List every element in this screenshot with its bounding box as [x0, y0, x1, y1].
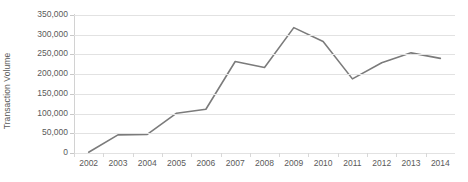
x-axis-tick-mark [103, 153, 104, 157]
y-axis-tick-label: 250,000 [14, 48, 68, 58]
y-axis-tick-label: 300,000 [14, 29, 68, 39]
y-axis-tick-label: 150,000 [14, 88, 68, 98]
x-axis-tick-label: 2007 [226, 158, 245, 168]
x-axis-tick-label: 2010 [314, 158, 333, 168]
y-axis-tick-label: 50,000 [14, 127, 68, 137]
x-axis-tick-label: 2004 [138, 158, 157, 168]
y-axis-tick-mark [70, 114, 74, 115]
x-axis-tick-label: 2006 [196, 158, 215, 168]
y-axis-tick-mark [70, 94, 74, 95]
x-axis-tick-labels: 2002200320042005200620072008200920102011… [74, 158, 455, 174]
y-axis-tick-mark [70, 35, 74, 36]
y-axis-tick-label: 200,000 [14, 68, 68, 78]
y-axis-tick-label: 350,000 [14, 9, 68, 19]
gridline [74, 74, 455, 75]
x-axis-tick-mark [396, 153, 397, 157]
x-axis-tick-mark [426, 153, 427, 157]
x-axis-tick-mark [74, 153, 75, 157]
gridline [74, 153, 455, 154]
chart-screenshot: Transaction Volume 050,000100,000150,000… [0, 0, 468, 182]
x-axis-tick-mark [221, 153, 222, 157]
y-axis-tick-mark [70, 15, 74, 16]
gridline [74, 133, 455, 134]
x-axis-tick-mark [191, 153, 192, 157]
gridline [74, 35, 455, 36]
y-axis-tick-label: 100,000 [14, 108, 68, 118]
y-axis-tick-mark [70, 54, 74, 55]
x-axis-tick-label: 2009 [284, 158, 303, 168]
gridline [74, 114, 455, 115]
x-axis-tick-label: 2012 [372, 158, 391, 168]
x-axis-tick-label: 2005 [167, 158, 186, 168]
x-axis-tick-label: 2013 [402, 158, 421, 168]
x-axis-tick-mark [279, 153, 280, 157]
y-axis-title: Transaction Volume [0, 0, 14, 182]
x-axis-tick-mark [308, 153, 309, 157]
x-axis-tick-mark [367, 153, 368, 157]
y-axis-tick-labels: 050,000100,000150,000200,000250,000300,0… [14, 0, 68, 182]
x-axis-tick-mark [250, 153, 251, 157]
gridline [74, 15, 455, 16]
x-axis-tick-mark [162, 153, 163, 157]
gridline [74, 94, 455, 95]
x-axis-tick-label: 2003 [108, 158, 127, 168]
plot-area [74, 15, 455, 153]
gridline [74, 54, 455, 55]
x-axis-tick-label: 2011 [343, 158, 361, 168]
x-axis-tick-label: 2002 [79, 158, 98, 168]
y-axis-tick-mark [70, 74, 74, 75]
x-axis-tick-mark [133, 153, 134, 157]
x-axis-tick-mark [338, 153, 339, 157]
y-axis-tick-mark [70, 133, 74, 134]
y-axis-tick-label: 0 [14, 147, 68, 157]
x-axis-tick-label: 2014 [431, 158, 450, 168]
x-axis-tick-label: 2008 [255, 158, 274, 168]
